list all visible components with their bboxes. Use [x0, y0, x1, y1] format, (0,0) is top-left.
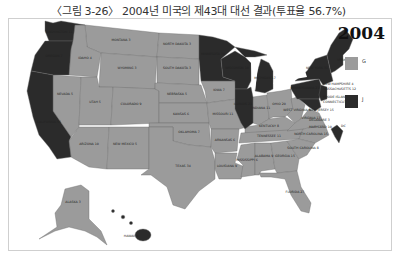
label-sd: SOUTH DAKOTA 3: [163, 66, 191, 70]
legend-item-g: G: [345, 57, 366, 70]
state-arizona: [69, 127, 109, 169]
label-nd: NORTH DAKOTA 3: [163, 42, 191, 46]
label-ar: ARKANSAS 6: [215, 138, 235, 142]
label-il: ILLINOIS 21: [234, 102, 252, 106]
label-in: INDIANA 11: [252, 106, 271, 110]
legend-swatch-j: [345, 95, 358, 108]
label-co: COLORADO 9: [120, 102, 141, 106]
label-tn: TENNESSEE 11: [256, 134, 281, 138]
state-wyoming: [99, 53, 157, 89]
state-hawaii-2: [121, 215, 125, 219]
label-mn: MINNESOTA 10: [201, 52, 225, 56]
state-alaska: [39, 185, 107, 245]
label-tx: TEXAS 34: [174, 164, 190, 168]
label-wy: WYOMING 3: [117, 66, 136, 70]
label-la: LOUISIANA 9: [217, 164, 237, 168]
label-fl: FLORIDA 27: [286, 190, 305, 194]
label-oh: OHIO 20: [272, 102, 285, 106]
label-wa: WASHINGTON 11: [45, 30, 72, 34]
legend-label-g: G: [362, 58, 366, 64]
label-hi: HAWAII 4: [124, 234, 138, 238]
label-md: MARYLAND 10: [309, 125, 332, 129]
label-mt: MONTANA 3: [111, 38, 130, 42]
state-south-dakota: [157, 57, 199, 85]
state-hawaii-1: [112, 210, 115, 213]
label-nh: NEW HAMPSHIRE 4: [323, 82, 353, 86]
label-wi: WISCONSIN 10: [225, 66, 249, 70]
label-ga: GEORGIA 15: [275, 154, 295, 158]
legend-label-j: J: [362, 96, 363, 102]
figure-caption: 〈그림 3-26〉 2004년 미국의 제43대 대선 결과(투표율 56.7%…: [0, 2, 397, 18]
label-ks: KANSAS 6: [173, 112, 189, 116]
label-dc: DC: [341, 124, 346, 128]
label-ne: NEBRASKA 5: [167, 92, 187, 96]
label-ny: NEW YORK 31: [306, 66, 328, 70]
label-mo: MISSOURI 11: [213, 112, 234, 116]
label-ca: CALIFORNIA 55: [37, 120, 61, 124]
label-nv: NEVADA 5: [57, 92, 73, 96]
label-id: IDAHO 4: [78, 56, 91, 60]
label-nc: NORTH CAROLINA 15: [294, 132, 328, 136]
label-de: DELAWARE 3: [309, 118, 330, 122]
legend-item-j: J: [345, 95, 363, 108]
state-new-mexico: [107, 127, 149, 169]
label-ma: MASSACHUSETTS 12: [323, 87, 356, 91]
label-or: OREGON 7: [45, 54, 62, 58]
label-ok: OKLAHOMA 7: [178, 130, 200, 134]
state-colorado: [111, 87, 159, 125]
label-ut: UTAH 5: [89, 100, 101, 104]
legend-swatch-g: [345, 57, 358, 70]
label-sc: SOUTH CAROLINA 8: [287, 146, 319, 150]
state-hawaii-3: [129, 221, 132, 224]
label-ky: KENTUCKY 8: [259, 124, 279, 128]
label-nm: NEW MEXICO 5: [113, 142, 137, 146]
label-al: ALABAMA 9: [255, 154, 274, 158]
label-ms: MISSISSIPPI 6: [236, 158, 258, 162]
label-mi: MICHIGAN 17: [254, 76, 275, 80]
year-title: 2004: [338, 23, 385, 43]
label-ia: IOWA 7: [213, 88, 225, 92]
label-pa: PENNSYLVANIA 21: [291, 86, 320, 90]
us-election-map: WASHINGTON 11 OREGON 7 CALIFORNIA 55 MON…: [9, 19, 391, 250]
label-wv: WEST VIRGINIA 5: [283, 108, 310, 112]
map-frame: WASHINGTON 11 OREGON 7 CALIFORNIA 55 MON…: [8, 18, 392, 251]
label-az: ARIZONA 10: [79, 142, 99, 146]
label-nj: NEW JERSEY 15: [309, 108, 334, 112]
label-ak: ALASKA 3: [65, 200, 81, 204]
state-north-dakota: [157, 33, 199, 59]
state-oregon: [31, 41, 73, 75]
